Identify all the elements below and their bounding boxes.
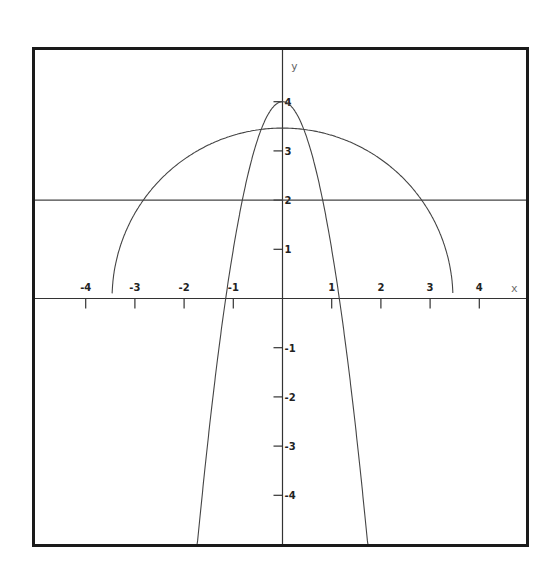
x-axis-label: x	[511, 282, 518, 295]
y-tick-label: 3	[285, 146, 292, 157]
function-plot: -4-3-2-11234 4321-1-2-3-4 x y	[0, 0, 555, 576]
x-tick-label: -2	[179, 282, 190, 293]
x-tick-label: -4	[80, 282, 91, 293]
x-tick-label: -3	[129, 282, 140, 293]
y-tick-label: -3	[285, 441, 296, 452]
x-tick-label: 4	[476, 282, 483, 293]
y-tick-label: -4	[285, 490, 296, 501]
x-tick-label: 1	[328, 282, 335, 293]
x-tick-label: 2	[377, 282, 384, 293]
y-tick-label: -1	[285, 343, 296, 354]
y-tick-label: 1	[285, 244, 292, 255]
plot-frame	[34, 49, 528, 546]
x-tick-label: -1	[228, 282, 239, 293]
x-tick-label: 3	[427, 282, 434, 293]
y-tick-label: -2	[285, 392, 296, 403]
y-axis-label: y	[291, 60, 298, 73]
